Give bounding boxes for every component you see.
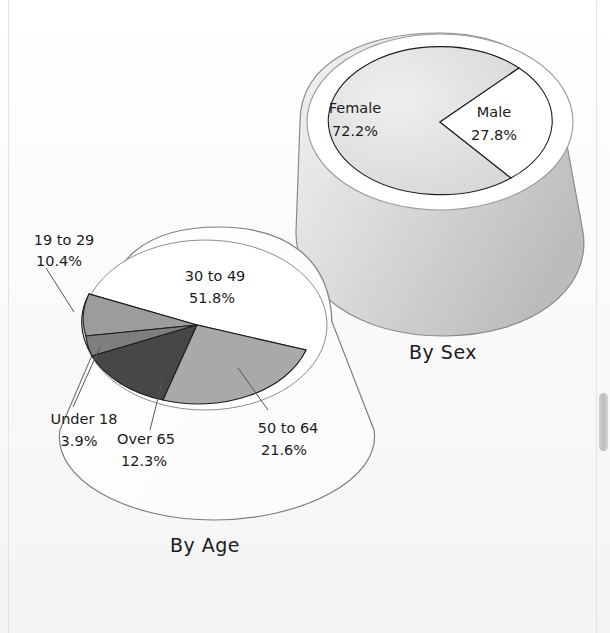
by-age-label-under-18-value: 3.9%	[61, 433, 98, 449]
vertical-scrollbar-track[interactable]	[598, 0, 610, 633]
by-sex-label-female-value: 72.2%	[332, 123, 378, 139]
document-page: Female 72.2% Male 27.8% By Sex	[0, 0, 610, 633]
by-age-label-19-to-29-name: 19 to 29	[34, 232, 95, 248]
by-age-label-under-18-name: Under 18	[51, 411, 118, 427]
by-sex-chart: Female 72.2% Male 27.8% By Sex	[296, 33, 584, 363]
leader-line-19-to-29	[46, 268, 74, 312]
by-age-label-over-65-name: Over 65	[117, 431, 175, 447]
vertical-scrollbar-thumb[interactable]	[599, 393, 608, 451]
by-age-label-50-to-64-name: 50 to 64	[258, 420, 319, 436]
by-age-label-30-to-49-name: 30 to 49	[185, 268, 246, 284]
by-sex-label-female-name: Female	[329, 100, 382, 116]
by-age-label-50-to-64-value: 21.6%	[261, 442, 307, 458]
by-age-label-19-to-29-value: 10.4%	[36, 253, 82, 269]
by-age-label-over-65-value: 12.3%	[121, 453, 167, 469]
by-age-title: By Age	[170, 534, 240, 556]
by-sex-title: By Sex	[409, 341, 477, 363]
by-age-label-30-to-49-value: 51.8%	[189, 290, 235, 306]
by-sex-label-male-value: 27.8%	[471, 127, 517, 143]
by-sex-label-male-name: Male	[477, 104, 511, 120]
pie-charts-figure: Female 72.2% Male 27.8% By Sex	[0, 0, 610, 633]
